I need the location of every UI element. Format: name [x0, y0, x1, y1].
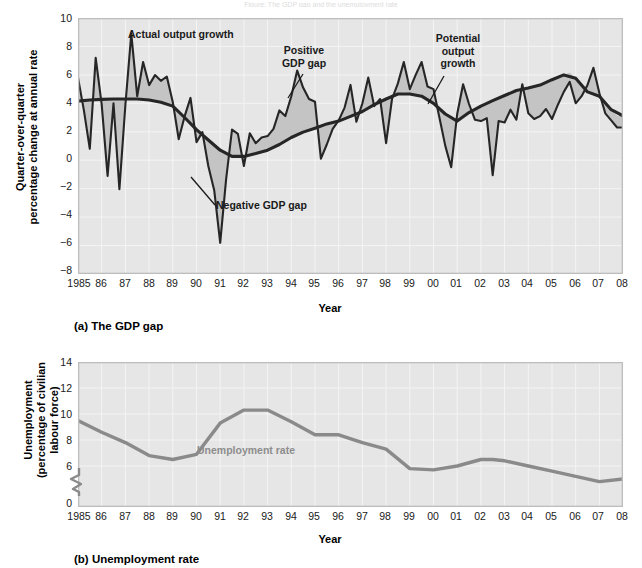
- panel-a-xtick-04: 04: [515, 278, 539, 289]
- panel-b-xtick-94: 94: [279, 511, 303, 522]
- panel-b-plot: [78, 362, 623, 507]
- panel-a-xtick-97: 97: [350, 278, 374, 289]
- panel-b-xtick-86: 86: [89, 511, 113, 522]
- panel-b-ytick-10: 10: [44, 409, 72, 419]
- panel-b-xtick-08: 08: [610, 511, 634, 522]
- panel-a-xtick-07: 07: [586, 278, 610, 289]
- panel-a-ytick-6: 6: [44, 69, 72, 79]
- panel-b-xtick-99: 99: [397, 511, 421, 522]
- panel-a-xtick-89: 89: [160, 278, 184, 289]
- panel-a-x-axis-title: Year: [300, 302, 360, 314]
- panel-b-xtick-98: 98: [373, 511, 397, 522]
- panel-b-ytick-12: 12: [44, 383, 72, 393]
- panel-a-ytick-10: 10: [44, 13, 72, 23]
- panel-a-xtick-90: 90: [184, 278, 208, 289]
- panel-a-xtick-99: 99: [397, 278, 421, 289]
- panel-b-ytick-14: 14: [44, 357, 72, 367]
- panel-a-caption: (a) The GDP gap: [74, 320, 163, 332]
- panel-a-ytick-4: 4: [44, 97, 72, 107]
- panel-b-xtick-03: 03: [492, 511, 516, 522]
- panel-b-xtick-01: 01: [444, 511, 468, 522]
- panel-b-xtick-05: 05: [539, 511, 563, 522]
- panel-b-x-axis-title: Year: [300, 533, 360, 545]
- panel-b-series-label: Unemployment rate: [197, 444, 295, 456]
- panel-b-xtick-96: 96: [326, 511, 350, 522]
- panel-b-xtick-93: 93: [255, 511, 279, 522]
- panel-b-xtick-89: 89: [160, 511, 184, 522]
- panel-a-xtick-95: 95: [302, 278, 326, 289]
- panel-a-xtick-02: 02: [468, 278, 492, 289]
- panel-a-ytick-neg2: −2: [44, 181, 72, 191]
- panel-b-xtick-97: 97: [350, 511, 374, 522]
- panel-a-xtick-03: 03: [492, 278, 516, 289]
- panel-a-annotation-negative-gap: Negative GDP gap: [216, 199, 307, 212]
- panel-a-plot: [78, 18, 623, 274]
- panel-b-xtick-00: 00: [421, 511, 445, 522]
- panel-a-xtick-98: 98: [373, 278, 397, 289]
- panel-a-annotation-actual-output: Actual output growth: [128, 28, 234, 41]
- panel-b-xtick-06: 06: [563, 511, 587, 522]
- panel-a-xtick-86: 86: [89, 278, 113, 289]
- panel-a-xtick-08: 08: [610, 278, 634, 289]
- panel-b-ytick-8: 8: [44, 435, 72, 445]
- panel-a-xtick-05: 05: [539, 278, 563, 289]
- panel-gdp-gap: Quarter-over-quarter percentage change a…: [0, 0, 642, 335]
- panel-b-xtick-07: 07: [586, 511, 610, 522]
- panel-a-xtick-93: 93: [255, 278, 279, 289]
- panel-a-annotation-positive-gap: Positive GDP gap: [262, 44, 346, 69]
- panel-a-ytick-neg8: −8: [44, 265, 72, 275]
- panel-a-xtick-96: 96: [326, 278, 350, 289]
- panel-b-xtick-95: 95: [302, 511, 326, 522]
- panel-b-axis-break-icon: [68, 468, 90, 496]
- panel-b-xtick-88: 88: [137, 511, 161, 522]
- panel-a-xtick-92: 92: [231, 278, 255, 289]
- panel-a-xtick-91: 91: [208, 278, 232, 289]
- panel-b-caption: (b) Unemployment rate: [74, 553, 199, 565]
- panel-a-ytick-8: 8: [44, 41, 72, 51]
- panel-a-ytick-neg4: −4: [44, 209, 72, 219]
- figure-gdp-gap-and-unemployment: Figure: The GDP gap and the unemployment…: [0, 0, 642, 568]
- panel-b-xtick-87: 87: [113, 511, 137, 522]
- panel-b-xtick-04: 04: [515, 511, 539, 522]
- panel-b-ytick-0: 0: [44, 498, 72, 508]
- panel-a-annotation-potential-output: Potential output growth: [418, 32, 498, 70]
- panel-b-xtick-92: 92: [231, 511, 255, 522]
- panel-unemployment-rate: Unemployment (percentage of civilian lab…: [0, 350, 642, 568]
- panel-a-xtick-06: 06: [563, 278, 587, 289]
- panel-a-xtick-88: 88: [137, 278, 161, 289]
- panel-a-xtick-87: 87: [113, 278, 137, 289]
- panel-a-ytick-neg6: −6: [44, 237, 72, 247]
- panel-a-y-axis-title: Quarter-over-quarter percentage change a…: [14, 12, 40, 262]
- panel-a-xtick-00: 00: [421, 278, 445, 289]
- panel-a-ytick-0: 0: [44, 153, 72, 163]
- panel-b-xtick-91: 91: [208, 511, 232, 522]
- panel-a-xtick-01: 01: [444, 278, 468, 289]
- panel-a-xtick-94: 94: [279, 278, 303, 289]
- panel-a-ytick-2: 2: [44, 125, 72, 135]
- panel-b-xtick-90: 90: [184, 511, 208, 522]
- panel-b-xtick-02: 02: [468, 511, 492, 522]
